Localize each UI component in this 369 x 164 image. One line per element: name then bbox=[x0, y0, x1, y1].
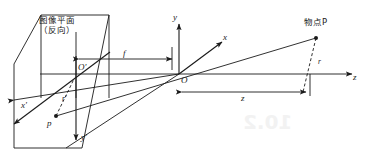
axis-x-prime-label: x' bbox=[21, 100, 27, 110]
object-point-label: 物点P bbox=[304, 17, 327, 27]
radius-r-dashed bbox=[303, 38, 316, 92]
axis-x bbox=[179, 42, 222, 74]
axis-y-label: y bbox=[173, 12, 177, 22]
axis-x-prime bbox=[14, 52, 110, 124]
object-point-marker bbox=[314, 36, 318, 40]
axis-z-label: z bbox=[353, 72, 357, 82]
radius-r-prime-label: r' bbox=[62, 94, 67, 103]
origin-prime-label: O' bbox=[78, 62, 86, 72]
image-point-label: p bbox=[47, 118, 52, 128]
focal-length-label: f bbox=[123, 48, 126, 58]
axis-y-prime-label: y' bbox=[81, 132, 87, 142]
radius-r-label: r bbox=[318, 57, 321, 66]
image-plane-label-line2: （反向） bbox=[27, 25, 87, 35]
origin-label: O bbox=[181, 75, 188, 85]
image-point-marker bbox=[54, 114, 58, 118]
image-plane-label-line1: 图像平面 bbox=[27, 15, 87, 25]
depth-label: z bbox=[241, 93, 245, 103]
axis-x-label: x bbox=[223, 32, 227, 42]
